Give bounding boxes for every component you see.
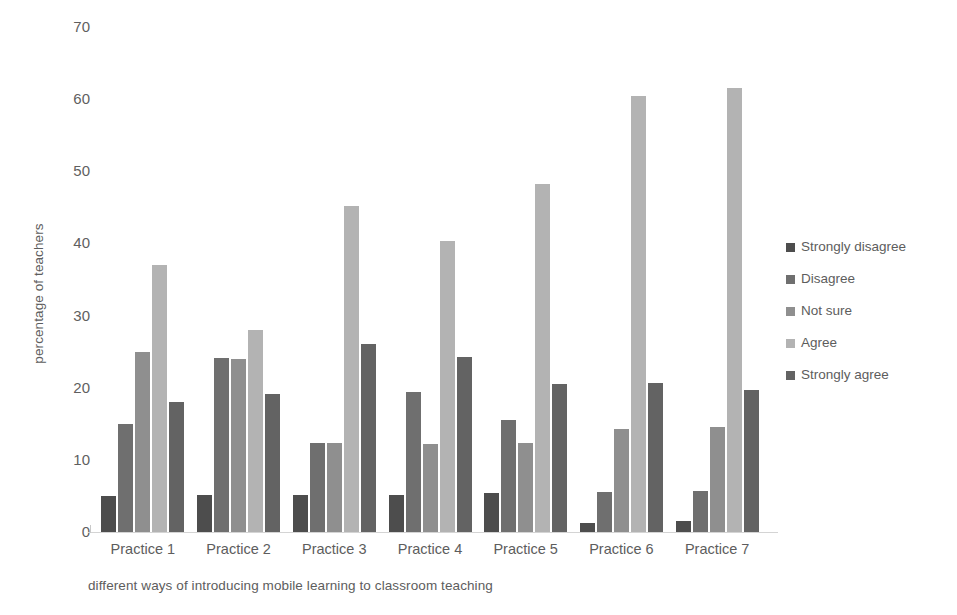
legend-item[interactable]: Disagree <box>786 263 951 295</box>
bar[interactable] <box>501 420 516 532</box>
bar[interactable] <box>457 357 472 532</box>
bar[interactable] <box>614 429 629 532</box>
bar[interactable] <box>197 495 212 532</box>
bar-group <box>580 20 663 532</box>
x-tick-label: Practice 5 <box>471 541 581 557</box>
bar[interactable] <box>518 443 533 532</box>
bar[interactable] <box>101 496 116 532</box>
y-tick-label-10: 10 <box>50 452 90 467</box>
bar[interactable] <box>552 384 567 532</box>
legend-item[interactable]: Agree <box>786 327 951 359</box>
x-tick-label: Practice 4 <box>375 541 485 557</box>
legend-label: Agree <box>801 336 837 350</box>
x-tick-label: Practice 2 <box>184 541 294 557</box>
x-axis-title: different ways of introducing mobile lea… <box>88 578 493 593</box>
bar[interactable] <box>631 96 646 532</box>
bar[interactable] <box>535 184 550 532</box>
y-tick-label-60: 60 <box>50 91 90 106</box>
bar[interactable] <box>152 265 167 532</box>
bar[interactable] <box>344 206 359 532</box>
bar-group <box>101 20 184 532</box>
x-tick-label: Practice 1 <box>88 541 198 557</box>
bar[interactable] <box>580 523 595 532</box>
y-tick-label-50: 50 <box>50 163 90 178</box>
legend-label: Disagree <box>801 272 855 286</box>
legend-item[interactable]: Strongly disagree <box>786 231 951 263</box>
bar[interactable] <box>293 495 308 533</box>
x-tick-label: Practice 6 <box>566 541 676 557</box>
legend-label: Strongly disagree <box>801 240 906 254</box>
bar[interactable] <box>648 383 663 532</box>
legend-item[interactable]: Not sure <box>786 295 951 327</box>
y-tick-label-70: 70 <box>50 19 90 34</box>
y-tick-label-30: 30 <box>50 308 90 323</box>
bar-group <box>676 20 759 532</box>
bar[interactable] <box>597 492 612 532</box>
plot-area <box>95 20 765 532</box>
y-axis-tick-labels: 010203040506070 <box>42 0 90 615</box>
legend-swatch-icon <box>786 243 795 252</box>
legend-item[interactable]: Strongly agree <box>786 359 951 391</box>
bar[interactable] <box>710 427 725 532</box>
bar[interactable] <box>135 352 150 532</box>
x-tick-label: Practice 7 <box>662 541 772 557</box>
legend-swatch-icon <box>786 371 795 380</box>
y-tick-label-0: 0 <box>50 524 90 539</box>
bar[interactable] <box>389 495 404 533</box>
bar-chart: percentage of teachers 010203040506070 P… <box>0 0 957 615</box>
bar[interactable] <box>248 330 263 532</box>
bar[interactable] <box>265 394 280 533</box>
legend-label: Not sure <box>801 304 852 318</box>
bar[interactable] <box>676 521 691 532</box>
bar[interactable] <box>484 493 499 532</box>
bar[interactable] <box>169 402 184 532</box>
legend-label: Strongly agree <box>801 368 889 382</box>
legend-swatch-icon <box>786 275 795 284</box>
y-tick-label-40: 40 <box>50 235 90 250</box>
legend-swatch-icon <box>786 307 795 316</box>
bar-group <box>484 20 567 532</box>
bar-group <box>389 20 472 532</box>
legend-swatch-icon <box>786 339 795 348</box>
bar-group <box>197 20 280 532</box>
bar[interactable] <box>327 443 342 532</box>
bar-group <box>293 20 376 532</box>
bar[interactable] <box>361 344 376 532</box>
bar[interactable] <box>118 424 133 532</box>
bar[interactable] <box>406 392 421 532</box>
bar[interactable] <box>744 390 759 532</box>
bar[interactable] <box>214 358 229 532</box>
y-tick-label-20: 20 <box>50 380 90 395</box>
x-tick-label: Practice 3 <box>279 541 389 557</box>
bar[interactable] <box>727 88 742 532</box>
bar[interactable] <box>310 443 325 532</box>
bar[interactable] <box>693 491 708 532</box>
bar[interactable] <box>423 444 438 532</box>
bar[interactable] <box>231 359 246 532</box>
bar[interactable] <box>440 241 455 532</box>
x-axis-line <box>88 532 778 533</box>
chart-legend: Strongly disagreeDisagreeNot sureAgreeSt… <box>786 231 951 391</box>
y-axis-origin-tick <box>90 525 91 533</box>
